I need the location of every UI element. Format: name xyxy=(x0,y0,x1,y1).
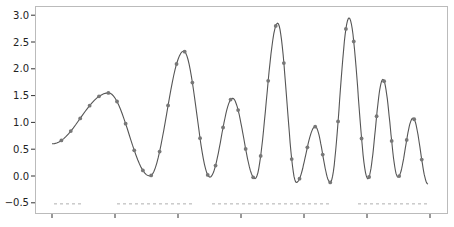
data-marker xyxy=(251,175,255,179)
data-marker xyxy=(132,148,136,152)
y-tick-label: 1.5 xyxy=(13,90,29,101)
y-tick-label: 0.5 xyxy=(13,144,29,155)
data-marker xyxy=(352,40,356,44)
data-marker xyxy=(206,173,210,177)
data-marker xyxy=(236,108,240,112)
data-marker xyxy=(420,158,424,162)
data-marker xyxy=(198,136,202,140)
data-marker xyxy=(141,169,145,173)
data-marker xyxy=(360,137,364,141)
data-marker xyxy=(107,91,111,95)
y-axis: −0.50.00.51.01.52.02.53.0 xyxy=(5,10,35,209)
data-marker xyxy=(390,139,394,143)
data-marker xyxy=(190,81,194,85)
y-tick-label: 3.0 xyxy=(13,10,29,21)
data-marker xyxy=(244,147,248,151)
y-tick-label: −0.5 xyxy=(5,197,29,208)
x-axis xyxy=(52,214,430,218)
data-marker xyxy=(149,174,153,178)
data-marker xyxy=(313,125,317,129)
data-marker xyxy=(290,157,294,161)
line-chart: −0.50.00.51.01.52.02.53.0 xyxy=(0,0,454,227)
data-marker xyxy=(274,24,278,28)
data-marker xyxy=(78,116,82,120)
data-marker xyxy=(412,117,416,121)
data-marker xyxy=(229,98,233,102)
data-marker xyxy=(88,104,92,108)
y-tick-label: 0.0 xyxy=(13,171,29,182)
data-marker xyxy=(405,138,409,142)
data-marker xyxy=(266,79,270,83)
data-marker xyxy=(60,139,64,143)
data-marker xyxy=(183,50,187,54)
data-marker xyxy=(124,122,128,126)
data-marker xyxy=(214,164,218,168)
data-marker xyxy=(397,174,401,178)
data-marker xyxy=(367,175,371,179)
data-marker xyxy=(382,79,386,83)
data-markers xyxy=(60,24,424,184)
y-tick-label: 1.0 xyxy=(13,117,29,128)
data-marker xyxy=(69,129,73,133)
data-marker xyxy=(158,150,162,154)
data-marker xyxy=(328,181,332,185)
plot-frame xyxy=(36,7,448,214)
data-marker xyxy=(115,100,119,104)
data-marker xyxy=(336,120,340,124)
data-marker xyxy=(175,62,179,66)
data-marker xyxy=(321,153,325,157)
data-marker xyxy=(344,27,348,31)
data-marker xyxy=(305,145,309,149)
data-marker xyxy=(221,126,225,130)
data-marker xyxy=(298,177,302,181)
data-marker xyxy=(259,154,263,158)
data-marker xyxy=(166,104,170,108)
y-tick-label: 2.5 xyxy=(13,37,29,48)
y-tick-label: 2.0 xyxy=(13,63,29,74)
data-curve xyxy=(52,18,428,184)
data-marker xyxy=(282,61,286,65)
data-marker xyxy=(97,94,101,98)
data-marker xyxy=(375,114,379,118)
